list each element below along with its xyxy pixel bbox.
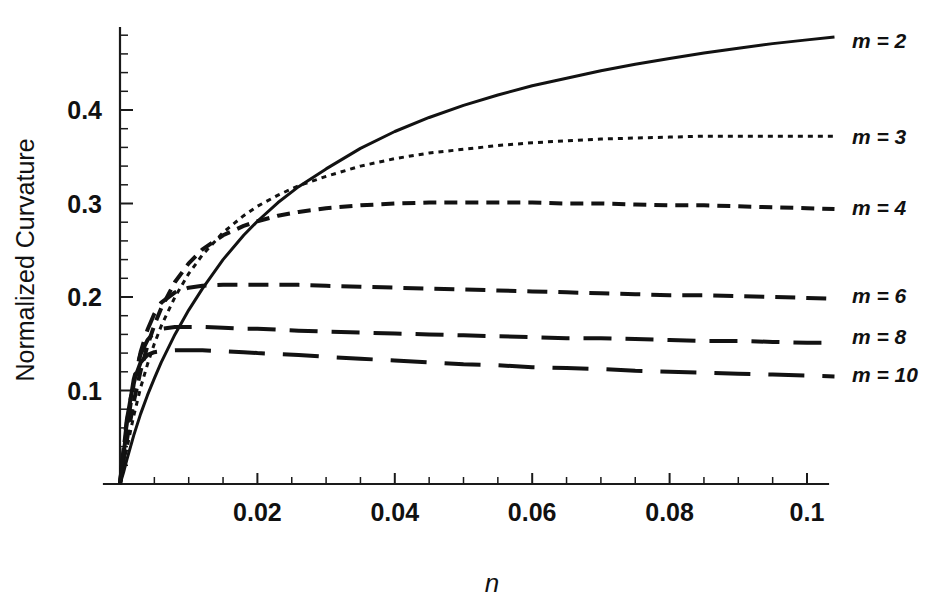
x-tick-label: 0.08 — [645, 498, 694, 526]
series-curve-m2 — [120, 37, 834, 484]
series-curve-m4 — [120, 203, 834, 484]
series-curve-m6 — [120, 285, 834, 484]
x-tick-label: 0.02 — [233, 498, 282, 526]
x-axis-title: n — [485, 568, 499, 598]
data-series-group — [120, 37, 834, 484]
x-tick-label: 0.06 — [508, 498, 557, 526]
y-tick-label: 0.2 — [67, 283, 102, 311]
y-tick-label: 0.1 — [67, 377, 102, 405]
series-label-m4: m = 4 — [852, 196, 907, 219]
series-label-m3: m = 3 — [852, 125, 907, 148]
series-label-m6: m = 6 — [852, 284, 907, 307]
x-axis-ticks — [154, 473, 807, 484]
x-tick-label: 0.04 — [370, 498, 419, 526]
series-curve-m8 — [120, 327, 834, 484]
series-label-group: m = 2m = 3m = 4m = 6m = 8m = 10 — [852, 29, 918, 386]
y-axis-tick-labels: 0.10.20.30.4 — [67, 96, 102, 405]
y-tick-label: 0.4 — [67, 96, 102, 124]
series-curve-m10 — [120, 350, 834, 484]
chart-figure: 0.10.20.30.4 0.020.040.060.080.1 m = 2m … — [0, 0, 946, 614]
axes-group — [104, 28, 828, 484]
x-axis-tick-labels: 0.020.040.060.080.1 — [233, 498, 824, 526]
x-tick-label: 0.1 — [790, 498, 825, 526]
series-label-m10: m = 10 — [852, 363, 918, 386]
series-label-m8: m = 8 — [852, 325, 907, 348]
y-tick-label: 0.3 — [67, 190, 102, 218]
series-curve-m3 — [120, 136, 834, 484]
y-axis-title: Normalized Curvature — [11, 138, 39, 381]
series-label-m2: m = 2 — [852, 29, 907, 52]
curvature-line-chart: 0.10.20.30.4 0.020.040.060.080.1 m = 2m … — [0, 0, 946, 614]
